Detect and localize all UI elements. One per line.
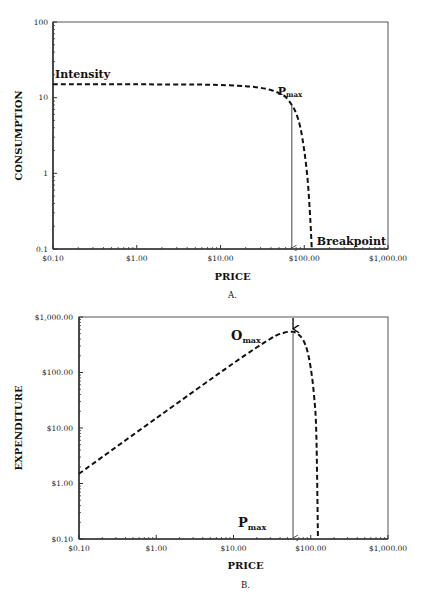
demand-expenditure-figure: $0.10$1.00$10.00$100.00$1,000.000.111010…	[0, 0, 429, 604]
panel-label: B.	[241, 580, 250, 590]
x-tick-label: $1,000.00	[369, 254, 407, 263]
y-tick-label: 10	[38, 93, 48, 102]
pmax-label: Pmax	[278, 85, 303, 99]
x-tick-label: $0.10	[68, 544, 90, 553]
chart-a-consumption: $0.10$1.00$10.00$100.00$1,000.000.111010…	[13, 18, 407, 301]
intensity-label: Intensity	[55, 68, 111, 81]
y-axis-ticks: $0.10$1.00$10.00$100.00$1,000.00	[35, 313, 83, 544]
x-axis-title: PRICE	[214, 271, 250, 282]
y-tick-label: $1.00	[52, 479, 74, 488]
x-axis-ticks: $0.10$1.00$10.00$100.00$1,000.00	[68, 535, 407, 553]
x-tick-label: $1.00	[126, 254, 148, 263]
x-tick-label: $100.00	[295, 544, 326, 553]
x-axis-title: PRICE	[227, 560, 263, 571]
plot-frame	[53, 22, 388, 249]
y-tick-label: 1	[43, 169, 48, 178]
panel-label: A.	[227, 290, 237, 300]
y-tick-label: 0.1	[36, 245, 48, 254]
pmax-label: Pmax	[238, 515, 266, 532]
plot-frame	[79, 317, 388, 539]
x-tick-label: $0.10	[42, 254, 64, 263]
omax-label: Omax	[231, 328, 261, 345]
y-axis-title: EXPENDITURE	[13, 385, 24, 470]
y-tick-label: $100.00	[42, 368, 73, 377]
annotations: OmaxPmax	[231, 318, 293, 538]
y-tick-label: $1,000.00	[35, 313, 73, 322]
x-tick-label: $1.00	[146, 544, 168, 553]
series-line	[79, 332, 318, 539]
y-tick-label: $0.10	[52, 535, 74, 544]
y-tick-label: 100	[34, 18, 49, 27]
y-axis-title: CONSUMPTION	[13, 90, 24, 180]
annotations: IntensityPmaxBreakpoint	[55, 68, 387, 248]
chart-b-expenditure: $0.10$1.00$10.00$100.00$1,000.00$0.10$1.…	[13, 313, 407, 591]
breakpoint-label: Breakpoint	[317, 235, 387, 248]
x-tick-label: $100.00	[289, 254, 320, 263]
x-tick-label: $10.00	[207, 254, 233, 263]
y-tick-label: $10.00	[47, 424, 73, 433]
series-line	[53, 84, 312, 249]
x-tick-label: $10.00	[220, 544, 246, 553]
x-tick-label: $1,000.00	[369, 544, 407, 553]
